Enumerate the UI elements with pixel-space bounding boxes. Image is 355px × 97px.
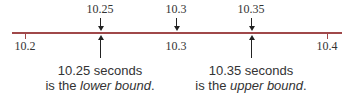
caption-lower-line1: 10.25 seconds	[45, 63, 154, 78]
point-label-10-35: 10.35	[238, 2, 265, 17]
caption-lower-bound: 10.25 seconds is the lower bound.	[45, 63, 154, 93]
number-line	[12, 32, 342, 34]
caption-upper-line1: 10.35 seconds	[195, 63, 306, 78]
point-label-10-3: 10.3	[166, 2, 187, 17]
tick-label-10-2: 10.2	[15, 39, 36, 54]
tick-label-10-3: 10.3	[166, 39, 187, 54]
caption-upper-bound: 10.35 seconds is the upper bound.	[195, 63, 306, 93]
point-label-10-25: 10.25	[87, 2, 114, 17]
tick-label-10-4: 10.4	[317, 39, 338, 54]
caption-lower-line2: is the lower bound.	[45, 78, 154, 93]
caption-upper-line2: is the upper bound.	[195, 78, 306, 93]
